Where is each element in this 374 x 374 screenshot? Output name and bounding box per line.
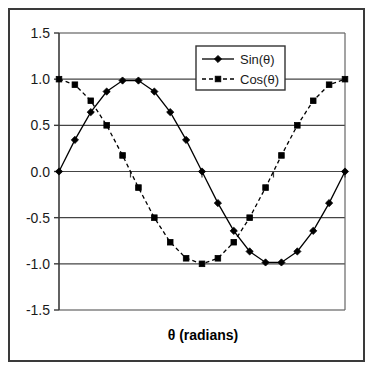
data-point-marker-square: [295, 123, 301, 129]
data-point-marker-diamond: [326, 199, 333, 206]
data-point-marker-diamond: [55, 168, 62, 175]
data-point-marker-square: [263, 185, 269, 191]
data-point-marker-square: [56, 76, 62, 82]
y-axis-tick-label: 1.0: [31, 71, 51, 87]
data-point-marker-diamond: [198, 168, 205, 175]
sine-cosine-chart: 1.51.00.50.0-0.5-1.0-1.5 Sin(θ)Cos(θ) θ …: [0, 0, 374, 374]
legend-label: Cos(θ): [240, 72, 279, 87]
data-point-marker-square: [231, 239, 237, 245]
x-axis-ticks: [131, 172, 346, 178]
data-point-marker-square: [215, 255, 221, 261]
data-point-marker-diamond: [71, 136, 78, 143]
data-point-marker-diamond: [183, 136, 190, 143]
data-point-marker-diamond: [341, 168, 348, 175]
data-point-marker-square: [72, 82, 78, 88]
y-axis-tick-label: 1.5: [31, 25, 51, 41]
data-point-marker-square: [215, 76, 221, 82]
y-axis-tick-label: -1.5: [26, 302, 50, 318]
data-point-marker-square: [342, 76, 348, 82]
data-point-marker-square: [183, 255, 189, 261]
y-axis-tick-label: 0.0: [31, 164, 51, 180]
y-axis-tick-label: 0.5: [31, 117, 51, 133]
data-point-marker-square: [310, 98, 316, 104]
data-point-marker-square: [120, 153, 126, 159]
data-point-marker-square: [152, 215, 158, 221]
data-point-marker-square: [247, 215, 253, 221]
data-point-marker-square: [279, 153, 285, 159]
data-point-marker-square: [136, 185, 142, 191]
y-axis-tick-label: -0.5: [26, 210, 50, 226]
data-point-marker-square: [199, 261, 205, 267]
legend-label: Sin(θ): [240, 52, 275, 67]
data-point-marker-square: [104, 123, 110, 129]
data-point-marker-square: [326, 82, 332, 88]
chart-figure: 1.51.00.50.0-0.5-1.0-1.5 Sin(θ)Cos(θ) θ …: [0, 0, 374, 374]
y-axis-tick-labels: 1.51.00.50.0-0.5-1.0-1.5: [26, 25, 50, 318]
data-point-marker-square: [167, 239, 173, 245]
x-axis-title: θ (radians): [168, 327, 239, 343]
data-point-marker-diamond: [214, 199, 221, 206]
y-axis-tick-label: -1.0: [26, 256, 50, 272]
data-point-marker-square: [88, 98, 94, 104]
chart-legend: Sin(θ)Cos(θ): [196, 46, 285, 90]
